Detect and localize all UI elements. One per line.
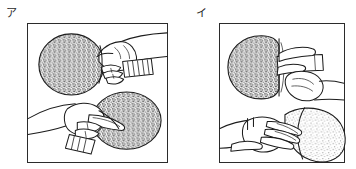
view-a-bottom: [28, 92, 161, 154]
thumb-i-bottom: [231, 141, 263, 151]
panel-i-illustration: [220, 24, 344, 162]
panel-label-a: ア: [6, 8, 17, 19]
panel-a-illustration: [28, 24, 167, 162]
figure-root: ア: [0, 0, 356, 169]
panel-label-i: イ: [196, 8, 207, 19]
forearm-bottom-a-bottom: [28, 126, 67, 135]
view-a-top: [39, 33, 167, 95]
racket-handle-a-top: [123, 59, 154, 78]
fingers-a-top: [101, 65, 124, 84]
view-i-bottom: [220, 108, 345, 162]
view-i-top: [228, 36, 344, 101]
hand-i-top: [285, 71, 323, 100]
panel-a: [27, 23, 168, 163]
racket-blade-i-top: [228, 36, 279, 99]
racket-blade-a-top: [39, 34, 104, 95]
forearm-bottom-i-top: [314, 99, 344, 100]
forearm-top-i-top: [319, 81, 344, 83]
panel-i: [219, 23, 345, 163]
forearm-a-top: [121, 33, 167, 42]
